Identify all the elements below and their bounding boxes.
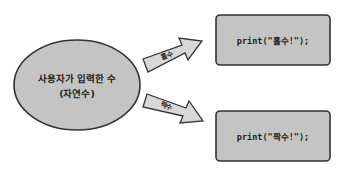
flow-diagram: 사용자가 입력한 수 (자연수) 홀수 짝수 print("홀수!"); pri… [0,0,345,173]
code-box-even: print("짝수!"); [216,111,330,161]
code-odd: print("홀수!"); [237,36,309,46]
code-even: print("짝수!"); [237,132,309,142]
source-node: 사용자가 입력한 수 (자연수) [14,40,140,130]
source-label-line2: (자연수) [59,88,95,99]
source-label-line1: 사용자가 입력한 수 [38,73,117,84]
arrow-odd: 홀수 [143,38,202,72]
code-box-odd: print("홀수!"); [216,15,330,65]
arrow-even: 짝수 [143,94,203,123]
